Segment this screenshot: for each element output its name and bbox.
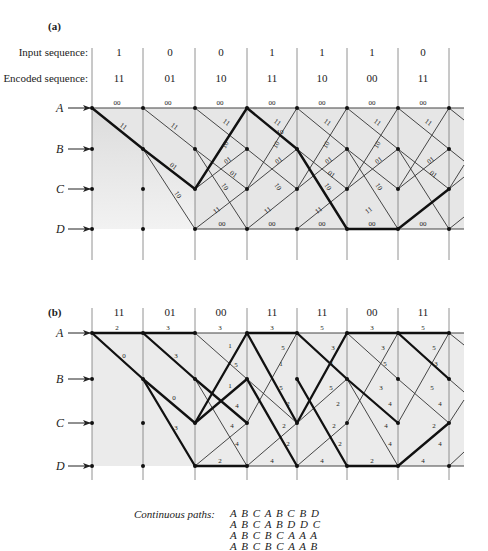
svg-text:C: C [56,416,65,430]
svg-text:A: A [55,326,64,340]
svg-text:5: 5 [432,344,436,352]
svg-text:B: B [56,142,64,156]
svg-text:4: 4 [438,400,442,408]
svg-text:5: 5 [430,384,434,392]
svg-text:2: 2 [332,422,336,430]
svg-text:00: 00 [269,220,277,228]
trellis-b: AB CD [55,308,464,480]
svg-text:5: 5 [329,384,333,392]
svg-text:00: 00 [114,99,122,107]
svg-text:5: 5 [421,324,425,332]
svg-text:2: 2 [286,400,290,408]
svg-text:00: 00 [269,99,277,107]
svg-text:3: 3 [331,344,335,352]
trellis-diagrams: AB CD [0,0,488,551]
svg-text:3: 3 [218,324,222,332]
svg-text:2: 2 [115,324,119,332]
svg-text:4: 4 [384,422,388,430]
continuous-path-row: A B C B C A A B [230,541,321,551]
svg-text:1: 1 [279,360,283,368]
svg-text:2: 2 [282,422,286,430]
svg-text:00: 00 [319,99,327,107]
svg-text:4: 4 [388,440,392,448]
svg-text:00: 00 [165,99,173,107]
svg-text:4: 4 [270,457,274,465]
svg-text:D: D [55,459,65,473]
svg-text:3: 3 [166,324,170,332]
svg-text:4: 4 [235,440,239,448]
svg-text:5: 5 [320,324,324,332]
svg-text:0: 0 [172,394,176,402]
svg-text:4: 4 [421,457,425,465]
svg-text:5: 5 [281,344,285,352]
svg-text:3: 3 [329,360,333,368]
svg-text:3: 3 [174,424,178,432]
continuous-paths-list: A B C A B C B D A B C A B D D C A B C B … [230,508,321,551]
svg-text:1: 1 [228,382,232,390]
svg-text:4: 4 [388,400,392,408]
svg-text:5: 5 [383,360,387,368]
svg-text:2: 2 [338,440,342,448]
svg-text:2: 2 [286,440,290,448]
svg-text:2: 2 [336,400,340,408]
svg-text:3: 3 [270,324,274,332]
svg-text:3: 3 [434,360,438,368]
svg-text:5: 5 [279,384,283,392]
svg-text:3: 3 [370,324,374,332]
svg-text:D: D [55,222,65,236]
svg-text:3: 3 [381,344,385,352]
svg-text:4: 4 [235,402,239,410]
svg-text:4: 4 [230,422,234,430]
svg-text:10: 10 [277,128,285,136]
svg-text:B: B [56,372,64,386]
svg-text:00: 00 [319,220,327,228]
svg-text:2: 2 [218,457,222,465]
svg-text:00: 00 [420,220,428,228]
svg-text:3: 3 [174,352,178,360]
trellis-a: AB CD [55,48,464,260]
svg-text:2: 2 [370,457,374,465]
svg-text:00: 00 [217,99,225,107]
svg-text:2: 2 [432,422,436,430]
svg-text:3: 3 [379,384,383,392]
svg-text:4: 4 [320,457,324,465]
svg-text:00: 00 [420,99,428,107]
svg-text:5: 5 [234,361,238,369]
svg-text:C: C [56,182,65,196]
svg-text:1: 1 [228,342,232,350]
svg-text:0: 0 [122,352,126,360]
svg-text:00: 00 [369,220,377,228]
svg-text:A: A [55,101,64,115]
continuous-paths-caption: Continuous paths: [134,508,215,520]
svg-text:00: 00 [369,99,377,107]
svg-text:4: 4 [438,440,442,448]
svg-text:00: 00 [219,220,227,228]
